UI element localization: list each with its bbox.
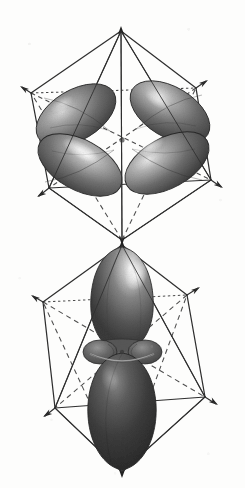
upper-panel xyxy=(20,26,223,245)
lower-panel xyxy=(31,240,218,478)
lower-orbital-dz2 xyxy=(83,247,162,470)
orbital-figure xyxy=(0,0,245,488)
orbital-diagram-svg xyxy=(0,0,245,488)
orbital-lobe-z-down xyxy=(88,353,156,470)
